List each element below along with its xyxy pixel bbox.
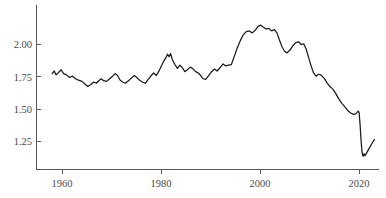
y-tick-label-3: 2.00 — [14, 39, 32, 50]
x-tick-label-3: 2020 — [349, 178, 370, 189]
y-tick-label-1: 1.50 — [14, 104, 32, 115]
x-tick-label-0: 1960 — [52, 178, 73, 189]
chart-figure: 1.25 1.50 1.75 2.00 1960 1980 2000 2020 — [0, 0, 386, 198]
x-tick-labels: 1960 1980 2000 2020 — [52, 178, 370, 189]
y-tick-label-0: 1.25 — [14, 136, 32, 147]
x-tick-marks — [62, 170, 359, 174]
x-tick-label-2: 2000 — [250, 178, 271, 189]
line-chart-plot: 1.25 1.50 1.75 2.00 1960 1980 2000 2020 — [0, 0, 386, 198]
data-series-line — [52, 25, 374, 156]
x-tick-label-1: 1980 — [151, 178, 172, 189]
y-tick-labels: 1.25 1.50 1.75 2.00 — [14, 39, 32, 147]
y-tick-label-2: 1.75 — [14, 72, 32, 83]
y-tick-marks — [37, 45, 41, 142]
